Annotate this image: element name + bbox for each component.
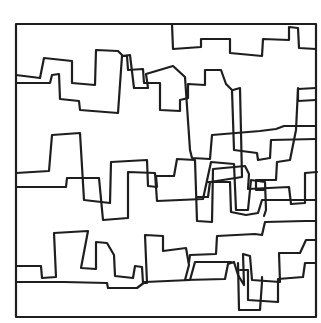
- drawing-paths: [16, 24, 317, 310]
- middle-line-1: [16, 133, 317, 222]
- top-skyline-line: [172, 24, 316, 56]
- lower-line-1: [16, 231, 316, 285]
- middle-line-2: [16, 162, 266, 220]
- drawing-svg: [0, 0, 321, 323]
- upper-line-1: [16, 50, 316, 160]
- lower-right-line: [189, 221, 315, 262]
- middle-right-line: [208, 182, 316, 215]
- lower-line-2: [16, 262, 231, 288]
- line-drawing-artwork: [0, 0, 321, 323]
